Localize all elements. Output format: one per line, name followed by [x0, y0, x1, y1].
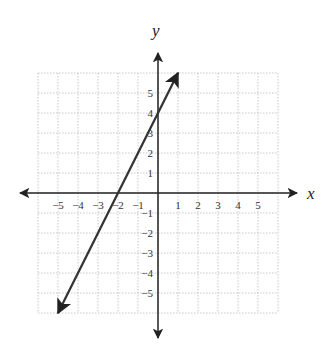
x-tick-label: −4 — [72, 199, 84, 211]
x-tick-label: −5 — [52, 199, 64, 211]
x-tick-label: 1 — [175, 199, 181, 211]
x-tick-label: 5 — [255, 199, 261, 211]
y-tick-label: −1 — [141, 207, 153, 219]
x-tick-label: −3 — [92, 199, 104, 211]
y-tick-label: 1 — [148, 167, 154, 179]
y-axis-label: y — [150, 21, 160, 40]
coordinate-plane: x y −5−4−3−2−112345 54321−1−2−3−4−5 — [0, 0, 331, 349]
x-tick-label: 4 — [235, 199, 241, 211]
x-tick-label: 2 — [195, 199, 201, 211]
x-axis-label: x — [306, 184, 315, 203]
y-tick-label: −4 — [141, 267, 153, 279]
y-tick-label: −5 — [141, 287, 153, 299]
y-tick-label: 4 — [148, 107, 154, 119]
y-tick-label: −2 — [141, 227, 153, 239]
y-tick-label: −3 — [141, 247, 153, 259]
y-tick-label: 5 — [148, 87, 154, 99]
x-tick-label: 3 — [215, 199, 221, 211]
x-tick-labels: −5−4−3−2−112345 — [52, 199, 261, 211]
y-tick-label: 2 — [148, 147, 154, 159]
